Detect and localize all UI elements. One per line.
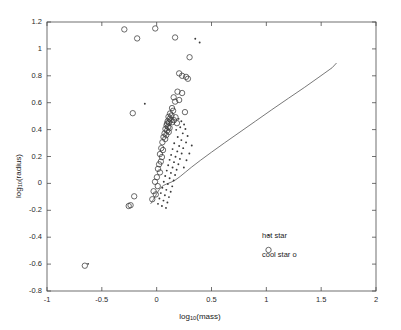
hot-star-point	[172, 148, 174, 150]
hot-star-point	[164, 175, 166, 177]
y-tick-label: -0.8	[3, 286, 42, 295]
legend-label-cool: cool star o	[262, 250, 297, 259]
cool-star-point	[134, 36, 139, 41]
hot-star-point	[170, 172, 172, 174]
cool-star-point	[182, 109, 187, 114]
hot-star-point	[177, 163, 179, 165]
y-tick-label: -0.4	[3, 232, 42, 241]
hot-star-point	[158, 198, 160, 200]
hot-star-point	[182, 132, 184, 134]
hot-star-point	[186, 159, 188, 161]
cool-star-point	[128, 202, 133, 207]
cool-star-point	[122, 27, 127, 32]
hot-star-point	[183, 124, 185, 126]
y-tick-label: 0.8	[3, 71, 42, 80]
hot-star-point	[167, 183, 169, 185]
x-tick-label: -1	[27, 295, 67, 304]
hot-star-point	[194, 38, 196, 40]
hot-star-point	[167, 164, 169, 166]
y-axis-title: log10(radius)	[14, 154, 23, 198]
hot-star-point	[199, 41, 201, 43]
y-tick-label: 1.2	[3, 17, 42, 26]
figure-canvas: -0.8-0.6-0.4-0.200.20.40.60.811.2 -1-0.5…	[0, 0, 401, 330]
cool-star-markers	[82, 26, 192, 269]
hot-star-point	[160, 192, 162, 194]
plot-border	[47, 22, 376, 291]
cool-star-point	[131, 194, 136, 199]
x-tick-label: 1.5	[301, 295, 341, 304]
hot-star-point	[144, 103, 146, 105]
x-axis-title-main: log	[179, 312, 190, 321]
hot-star-point	[170, 191, 172, 193]
hot-star-point	[176, 150, 178, 152]
cool-star-point	[187, 55, 192, 60]
cool-star-point	[130, 110, 135, 115]
hot-star-point	[180, 139, 182, 141]
hot-star-point	[175, 156, 177, 158]
x-tick-label: -0.5	[82, 295, 122, 304]
hot-star-point	[157, 203, 159, 205]
hot-star-point	[166, 170, 168, 172]
hot-star-point	[179, 126, 181, 128]
hot-star-point	[180, 120, 182, 122]
hot-star-point	[173, 161, 175, 163]
hot-star-point	[181, 153, 183, 155]
hot-star-point	[178, 145, 180, 147]
hot-star-point	[165, 189, 167, 191]
hot-star-point	[161, 205, 163, 207]
hot-star-point	[177, 136, 179, 138]
cool-star-point	[155, 183, 160, 188]
hot-star-point	[171, 185, 173, 187]
hot-star-point	[184, 128, 186, 130]
x-tick-label: 0.5	[192, 295, 232, 304]
hot-star-point	[87, 263, 89, 265]
hot-star-point	[175, 129, 177, 131]
hot-star-point	[166, 202, 168, 204]
hot-star-point	[164, 194, 166, 196]
hot-star-point	[172, 167, 174, 169]
hot-star-point	[163, 200, 165, 202]
hot-star-point	[169, 159, 171, 161]
hot-star-point	[169, 177, 171, 179]
y-tick-label: -0.2	[3, 205, 42, 214]
hot-star-point	[182, 147, 184, 149]
y-axis-title-tail: (radius)	[14, 154, 23, 181]
axes-frame	[47, 22, 376, 291]
cool-star-point	[82, 263, 87, 268]
x-axis-title-tail: (mass)	[196, 312, 220, 321]
y-tick-label: 0.6	[3, 98, 42, 107]
y-tick-label: 1	[3, 44, 42, 53]
cool-star-point	[153, 26, 158, 31]
y-axis-title-main: log	[14, 187, 23, 198]
x-axis-title: log10(mass)	[179, 312, 220, 321]
hot-star-point	[174, 174, 176, 176]
hot-star-point	[183, 167, 185, 169]
legend-entry-cool-star: cool star o	[262, 250, 297, 259]
hot-star-markers	[87, 38, 200, 265]
hot-star-point	[173, 142, 175, 144]
hot-star-point	[179, 158, 181, 160]
hot-star-point	[170, 154, 172, 156]
cool-star-point	[172, 35, 177, 40]
hot-star-point	[188, 153, 190, 155]
legend-label-hot: hot star	[262, 231, 287, 240]
hot-star-point	[178, 118, 180, 120]
y-axis-title-sub: 10	[17, 181, 23, 187]
hot-star-point	[185, 141, 187, 143]
hot-star-point	[191, 145, 193, 147]
hot-star-point	[168, 196, 170, 198]
theoretical-curve	[151, 63, 337, 204]
model-curve-line	[151, 63, 337, 204]
hot-star-point	[163, 181, 165, 183]
x-tick-label: 0	[137, 295, 177, 304]
y-tick-label: 0.4	[3, 125, 42, 134]
tick-marks	[47, 22, 376, 291]
hot-star-point	[161, 187, 163, 189]
cool-star-point	[160, 140, 165, 145]
y-tick-label: -0.6	[3, 259, 42, 268]
hot-star-point	[173, 179, 175, 181]
legend-entry-hot-star: hot star	[262, 231, 287, 240]
x-tick-label: 1	[246, 295, 286, 304]
scatter-plot-svg	[0, 0, 401, 330]
hot-star-point	[187, 135, 189, 137]
